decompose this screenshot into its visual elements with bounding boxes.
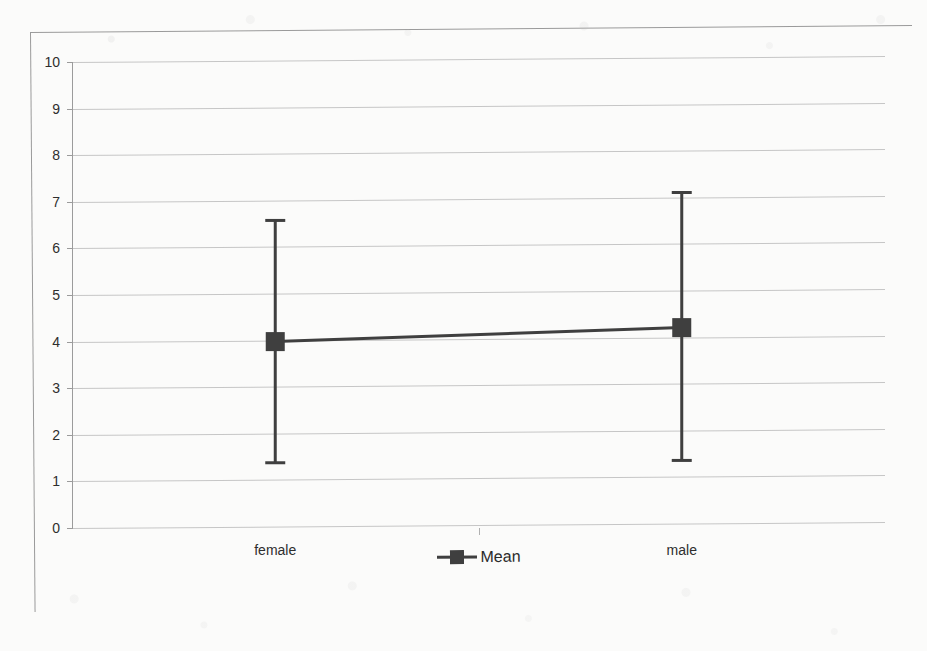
y-tick-label-2: 2 bbox=[52, 428, 60, 442]
series-mean bbox=[265, 192, 692, 462]
series-line bbox=[275, 328, 682, 342]
y-tick-label-10: 10 bbox=[44, 55, 60, 69]
legend-marker-square-icon bbox=[436, 548, 478, 566]
y-tick-label-7: 7 bbox=[52, 195, 60, 209]
series-layer bbox=[72, 62, 885, 528]
data-point-marker-male[interactable] bbox=[672, 318, 691, 337]
y-tick-label-4: 4 bbox=[52, 335, 60, 349]
legend-item-mean[interactable]: Mean bbox=[436, 548, 520, 566]
y-tick-label-5: 5 bbox=[52, 288, 60, 302]
y-tick-label-9: 9 bbox=[52, 102, 60, 116]
frame-left-border bbox=[30, 32, 36, 612]
y-tick-label-3: 3 bbox=[52, 381, 60, 395]
y-tick-0 bbox=[67, 528, 73, 529]
data-point-marker-female[interactable] bbox=[266, 332, 285, 351]
y-tick-label-6: 6 bbox=[52, 241, 60, 255]
x-tick-divider bbox=[479, 528, 480, 535]
legend-label-mean: Mean bbox=[480, 548, 520, 566]
plot-area: 012345678910 femalemale bbox=[72, 62, 885, 528]
frame-top-border bbox=[30, 25, 912, 33]
y-tick-label-8: 8 bbox=[52, 148, 60, 162]
y-tick-label-0: 0 bbox=[52, 521, 60, 535]
y-tick-label-1: 1 bbox=[52, 474, 60, 488]
